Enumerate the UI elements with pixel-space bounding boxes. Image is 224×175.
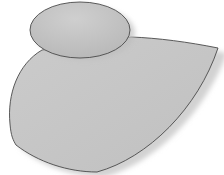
body-blob-shape: [10, 37, 218, 172]
head-ellipse-shape: [30, 2, 130, 58]
diagram-canvas: [0, 0, 224, 175]
